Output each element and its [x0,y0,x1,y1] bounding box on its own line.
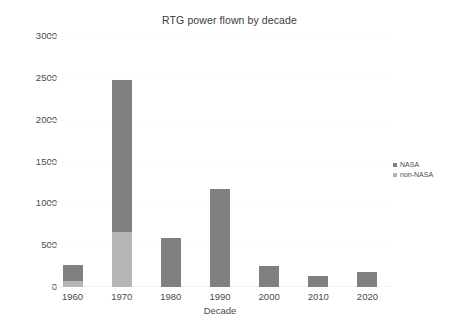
bar-segment[interactable] [210,189,230,287]
plot-area [48,36,392,287]
legend-swatch-icon [393,163,397,167]
bar-stack[interactable] [161,238,181,287]
x-axis-title: Decade [48,305,392,316]
legend-label: non-NASA [400,170,433,179]
bar-segment[interactable] [357,272,377,287]
x-axis-tick-label: 1990 [195,291,245,302]
bar-segment[interactable] [63,265,83,281]
legend-label: NASA [400,160,419,169]
bar-segment[interactable] [112,80,132,231]
legend-item[interactable]: non-NASA [393,170,433,179]
bar-segment[interactable] [161,238,181,287]
gridline [48,162,392,163]
x-axis-tick-label: 2020 [342,291,392,302]
bar-stack[interactable] [259,266,279,287]
bar-stack[interactable] [63,265,83,287]
x-axis-tick-label: 1970 [97,291,147,302]
chart-title: RTG power flown by decade [0,14,459,26]
x-axis-tick-label: 2010 [293,291,343,302]
legend-swatch-icon [393,173,397,177]
gridline [48,78,392,79]
x-axis-tick-label: 1960 [48,291,98,302]
x-axis-tick-label: 1980 [146,291,196,302]
bar-segment[interactable] [112,232,132,287]
chart-figure: RTG power flown by decade 05001000150020… [0,0,459,327]
gridline [48,120,392,121]
bar-segment[interactable] [63,281,83,287]
legend-item[interactable]: NASA [393,160,433,169]
bar-stack[interactable] [308,276,328,287]
bar-stack[interactable] [210,189,230,287]
bar-stack[interactable] [112,80,132,287]
x-axis-tick-label: 2000 [244,291,294,302]
gridline [48,36,392,37]
bar-segment[interactable] [259,266,279,287]
bar-segment[interactable] [308,276,328,287]
legend: NASAnon-NASA [393,160,433,180]
bar-stack[interactable] [357,272,377,287]
